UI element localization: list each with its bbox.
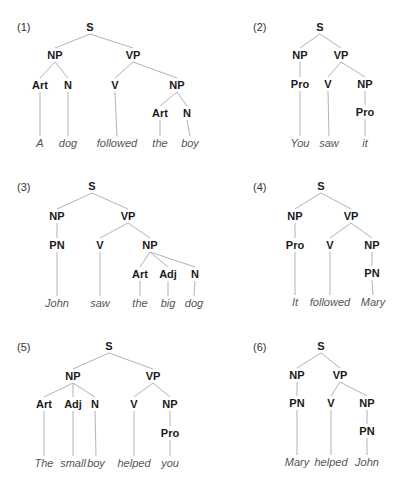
category-node-np: NP (169, 79, 184, 91)
terminal-word: saw (90, 297, 111, 309)
tree-edge (177, 92, 187, 106)
category-node-v: V (111, 79, 119, 91)
tree-edge (133, 62, 177, 78)
category-node-vp: VP (344, 210, 359, 222)
tree-edge (351, 223, 372, 238)
tree-edge (95, 411, 96, 456)
category-node-art: Art (36, 398, 52, 410)
category-node-np: NP (65, 370, 80, 382)
terminal-word: the (132, 297, 147, 309)
terminal-word: small (60, 457, 86, 469)
tree-edge (187, 120, 190, 136)
category-node-art: Art (132, 268, 148, 280)
tree-edge (297, 353, 321, 368)
category-node-pro: Pro (286, 239, 305, 251)
terminal-word: saw (319, 137, 340, 149)
tree-number-label: (1) (17, 21, 30, 33)
tree-edge (321, 353, 340, 368)
parse-tree-6: (6)SNPVPPNVNPPNMaryhelpedJohn (253, 340, 379, 468)
tree-edge (134, 383, 153, 397)
tree-edge (320, 34, 341, 48)
terminal-word: it (362, 137, 368, 149)
tree-edge (100, 223, 128, 238)
tree-edge (328, 91, 329, 136)
terminal-word: boy (87, 457, 106, 469)
tree-edge (55, 34, 90, 48)
category-node-s: S (88, 180, 95, 192)
category-node-pn: PN (364, 267, 379, 279)
category-node-np: NP (162, 398, 177, 410)
parse-tree-2: (2)SNPVPProVNPProYousawit (253, 21, 374, 149)
category-node-pro: Pro (356, 106, 375, 118)
category-node-pn: PN (289, 397, 304, 409)
tree-edge (328, 62, 341, 77)
category-node-v: V (324, 78, 332, 90)
terminal-word: dog (185, 297, 204, 309)
category-node-np: NP (292, 49, 307, 61)
category-node-art: Art (152, 107, 168, 119)
category-node-v: V (327, 397, 335, 409)
tree-edge (90, 34, 133, 48)
terminal-word: followed (97, 137, 138, 149)
category-node-pro: Pro (291, 78, 310, 90)
category-node-n: N (91, 398, 99, 410)
category-node-s: S (86, 21, 93, 33)
tree-edge (55, 62, 68, 78)
category-node-s: S (317, 340, 324, 352)
terminal-word: A (35, 137, 43, 149)
category-node-v: V (130, 398, 138, 410)
tree-edge (330, 223, 351, 238)
tree-edge (340, 382, 367, 396)
terminal-word: John (44, 297, 69, 309)
tree-edge (194, 281, 195, 296)
category-node-np: NP (47, 49, 62, 61)
category-node-n: N (191, 268, 199, 280)
tree-edge (372, 280, 373, 295)
category-node-n: N (64, 79, 72, 91)
terminal-word: followed (310, 296, 351, 308)
tree-number-label: (5) (17, 341, 30, 353)
category-node-v: V (326, 239, 334, 251)
tree-edge (40, 62, 55, 78)
tree-edge (92, 193, 128, 209)
terminal-word: helped (117, 457, 151, 469)
tree-number-label: (4) (253, 181, 266, 193)
terminal-word: It (292, 296, 299, 308)
tree-edge (73, 383, 95, 397)
terminal-word: You (291, 137, 310, 149)
category-node-np: NP (289, 369, 304, 381)
tree-number-label: (6) (253, 341, 266, 353)
tree-edge (57, 193, 92, 209)
tree-edge (115, 92, 117, 136)
terminal-word: dog (59, 137, 78, 149)
category-node-n: N (183, 107, 191, 119)
parse-tree-4: (4)SNPVPProVNPPNItfollowedMary (253, 180, 387, 308)
category-node-vp: VP (126, 49, 141, 61)
category-node-np: NP (287, 210, 302, 222)
category-node-s: S (316, 21, 323, 33)
terminal-word: The (35, 457, 54, 469)
tree-number-label: (3) (17, 181, 30, 193)
tree-edge (44, 383, 73, 397)
terminal-word: you (160, 457, 179, 469)
category-node-vp: VP (334, 49, 349, 61)
category-node-v: V (96, 239, 104, 251)
parse-tree-3: (3)SNPVPPNVNPArtAdjNJohnsawthebigdog (17, 180, 204, 309)
tree-edge (153, 383, 170, 397)
terminal-word: boy (181, 137, 200, 149)
terminal-word: John (354, 456, 379, 468)
tree-edge (140, 252, 150, 267)
category-node-s: S (317, 180, 324, 192)
category-node-np: NP (142, 239, 157, 251)
category-node-np: NP (49, 210, 64, 222)
category-node-np: NP (364, 239, 379, 251)
tree-edge (321, 193, 351, 209)
terminal-word: Mary (361, 296, 387, 308)
tree-edge (73, 353, 109, 369)
category-node-art: Art (32, 79, 48, 91)
tree-number-label: (2) (253, 21, 266, 33)
category-node-pro: Pro (161, 427, 180, 439)
tree-edge (295, 193, 321, 209)
category-node-vp: VP (121, 210, 136, 222)
category-node-np: NP (359, 397, 374, 409)
